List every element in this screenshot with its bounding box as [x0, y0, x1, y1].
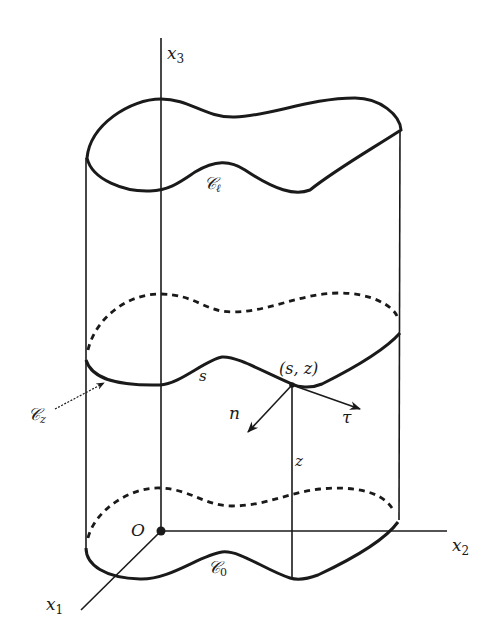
normal-vector-arrow — [248, 385, 292, 432]
tangent-label: τ — [342, 407, 352, 427]
bottom-curve-label: 𝒞0 — [208, 557, 227, 579]
normal-label: n — [229, 403, 240, 423]
top-curve-label: 𝒞ℓ — [204, 173, 221, 195]
c-z-pointer-arrow — [55, 383, 104, 409]
origin-point — [157, 527, 166, 536]
middle-back-curve-dashed — [88, 293, 397, 350]
x3-axis-label: x3 — [167, 43, 184, 66]
cylinder-right-edge — [399, 130, 400, 520]
middle-curve-label: 𝒞z — [28, 404, 46, 426]
x1-axis — [81, 531, 161, 610]
point-label: (s, z) — [279, 359, 318, 378]
cylinder-diagram: x3 𝒞ℓ s (s, z) τ n 𝒞z z O 𝒞0 x2 x1 — [0, 0, 487, 641]
x2-axis-label: x2 — [452, 535, 469, 558]
tangent-vector-arrow — [292, 385, 360, 409]
middle-front-curve-c-z — [86, 333, 400, 387]
arc-length-label: s — [199, 367, 207, 385]
x1-axis-label: x1 — [46, 594, 63, 617]
origin-label: O — [131, 520, 145, 540]
top-curve-c-l — [87, 98, 401, 192]
height-label: z — [294, 452, 303, 470]
